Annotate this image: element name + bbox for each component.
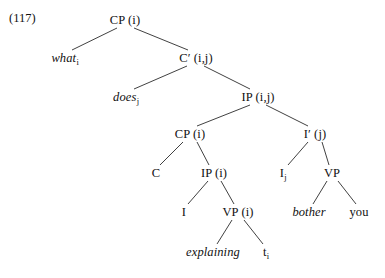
tree-node-explaining: explaining xyxy=(186,246,240,259)
tree-node-vp_embedded: VP (i) xyxy=(222,206,253,219)
tree-branch-cp_embedded-to-c_head xyxy=(160,142,183,165)
node-label: I xyxy=(182,205,186,219)
node-label: does xyxy=(113,90,136,104)
tree-node-i_head_j: Ij xyxy=(280,167,287,180)
tree-node-i_head: I xyxy=(182,206,186,219)
node-label: bother xyxy=(292,205,325,219)
node-subscript: j xyxy=(137,96,139,106)
tree-branch-vp_embedded-to-explaining xyxy=(217,220,232,244)
node-index: (i) xyxy=(125,13,140,27)
node-label: you xyxy=(349,205,368,219)
tree-node-cp_root: CP (i) xyxy=(110,14,140,27)
node-index: (i) xyxy=(212,166,227,180)
tree-branch-ip_top-to-ibar xyxy=(266,105,308,126)
tree-branch-vp_matrix-to-you xyxy=(338,181,356,204)
tree-node-you: you xyxy=(349,206,368,219)
tree-node-what: whati xyxy=(51,52,78,65)
node-label: C xyxy=(152,166,160,180)
node-label: I xyxy=(280,166,284,180)
node-label: VP xyxy=(324,166,340,180)
node-index: (i) xyxy=(238,205,253,219)
tree-branch-ibar-to-i_head_j xyxy=(288,142,308,165)
node-label: CP xyxy=(175,127,190,141)
tree-node-cp_embedded: CP (i) xyxy=(175,128,205,141)
tree-branch-cp_root-to-cbar xyxy=(134,28,188,50)
tree-node-ibar: I′ (j) xyxy=(304,128,326,141)
tree-node-cbar: C′ (i,j) xyxy=(179,52,212,65)
tree-node-vp_matrix: VP xyxy=(324,167,340,180)
node-label: what xyxy=(51,51,76,65)
node-label: IP xyxy=(242,90,253,104)
tree-branch-ibar-to-vp_matrix xyxy=(322,142,329,165)
tree-node-ip_top: IP (i,j) xyxy=(242,91,275,104)
node-label: IP xyxy=(201,166,212,180)
tree-branch-cp_embedded-to-ip_embedded xyxy=(197,142,209,165)
node-index: (i,j) xyxy=(252,90,274,104)
node-subscript: j xyxy=(284,172,286,182)
node-index: (i,j) xyxy=(191,51,213,65)
tree-branch-vp_embedded-to-trace_i xyxy=(244,220,263,244)
tree-branch-cp_root-to-what xyxy=(72,28,117,50)
node-label: explaining xyxy=(186,245,240,259)
tree-branch-cbar-to-ip_top xyxy=(204,66,250,89)
tree-node-bother: bother xyxy=(292,206,325,219)
node-index: (j) xyxy=(311,127,326,141)
tree-branch-vp_matrix-to-bother xyxy=(313,181,327,204)
node-label: VP xyxy=(222,205,238,219)
tree-branch-cbar-to-does xyxy=(134,66,187,89)
tree-branch-ip_embedded-to-i_head xyxy=(188,181,208,204)
tree-branch-ip_top-to-cp_embedded xyxy=(197,105,250,126)
node-subscript: i xyxy=(267,251,269,261)
tree-node-c_head: C xyxy=(152,167,160,180)
tree-branch-ip_embedded-to-vp_embedded xyxy=(221,181,234,204)
syntax-tree-figure: (117) CP (i)whatiC′ (i,j)doesjIP (i,j)CP… xyxy=(0,0,385,278)
node-index: (i) xyxy=(190,127,205,141)
tree-node-trace_i: ti xyxy=(263,246,269,259)
node-label: CP xyxy=(110,13,125,27)
tree-node-does: doesj xyxy=(113,91,139,104)
tree-node-ip_embedded: IP (i) xyxy=(201,167,227,180)
node-label: C′ xyxy=(179,51,190,65)
